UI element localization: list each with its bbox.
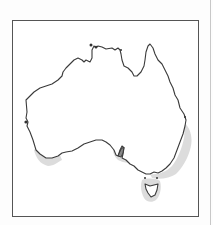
island-dot (120, 49, 122, 51)
island-dot (95, 46, 97, 48)
island-dot (184, 116, 186, 118)
island-dot (144, 177, 146, 179)
island-dot (24, 120, 27, 123)
island-dot (156, 177, 158, 179)
island-dot (90, 44, 93, 47)
map-canvas: Map of Australia with shaded southern co… (0, 0, 213, 225)
mainland-outline (26, 44, 186, 174)
australia-map (0, 0, 213, 225)
